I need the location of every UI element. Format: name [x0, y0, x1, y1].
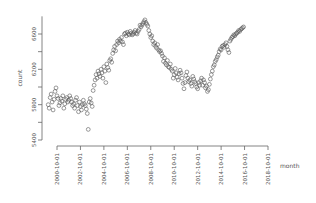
- data-point: [80, 108, 84, 112]
- data-point: [105, 62, 109, 66]
- x-tick-label: 2018-10-01: [265, 153, 271, 185]
- data-point: [51, 108, 55, 112]
- x-tick-label: 2016-10-01: [242, 153, 248, 185]
- data-point: [180, 76, 184, 80]
- data-point: [91, 89, 95, 93]
- x-tick-label: 2008-10-01: [148, 153, 154, 185]
- data-point: [101, 76, 105, 80]
- data-point: [104, 81, 108, 85]
- y-tick-label: 6200: [31, 62, 37, 76]
- y-tick-label: 5800: [31, 97, 37, 111]
- x-tick-label: 2012-10-01: [195, 153, 201, 185]
- data-point: [86, 127, 90, 131]
- data-point: [207, 82, 211, 86]
- x-tick-label: 2010-10-01: [171, 153, 177, 185]
- data-point: [48, 96, 52, 100]
- x-tick-label: 2006-10-01: [124, 153, 130, 185]
- y-tick-label: 5400: [31, 133, 37, 147]
- data-point: [85, 112, 89, 116]
- data-point: [168, 62, 172, 66]
- x-axis: 2000-10-012002-10-012004-10-012006-10-01…: [54, 146, 271, 185]
- data-point: [90, 105, 94, 109]
- data-point: [47, 106, 51, 110]
- y-axis-label: count: [16, 69, 23, 87]
- data-point: [92, 83, 96, 87]
- x-axis-label: month: [280, 162, 300, 169]
- data-point: [209, 73, 213, 77]
- data-point: [185, 70, 189, 74]
- x-tick-label: 2000-10-01: [54, 153, 60, 185]
- data-point: [53, 90, 57, 94]
- x-tick-label: 2002-10-01: [77, 153, 83, 185]
- data-point: [62, 106, 66, 110]
- x-tick-label: 2014-10-01: [218, 153, 224, 185]
- data-point: [184, 74, 188, 78]
- data-point: [173, 67, 177, 71]
- data-point: [182, 87, 186, 91]
- data-point: [210, 69, 214, 73]
- data-point: [171, 76, 175, 80]
- data-point: [88, 97, 92, 101]
- data-point: [49, 92, 53, 96]
- data-point: [103, 69, 107, 73]
- data-point: [84, 107, 88, 111]
- y-axis: 5400580062006600: [31, 16, 42, 147]
- scatter-chart: 5400580062006600 2000-10-012002-10-01200…: [0, 0, 316, 203]
- data-point: [46, 103, 50, 107]
- data-point: [81, 98, 85, 102]
- data-point: [165, 59, 169, 63]
- data-point: [61, 94, 65, 98]
- data-point: [52, 97, 56, 101]
- data-points: [46, 18, 245, 131]
- data-point: [208, 77, 212, 81]
- data-point: [147, 29, 151, 33]
- data-point: [54, 86, 58, 90]
- data-point: [50, 100, 54, 104]
- y-tick-label: 6600: [31, 27, 37, 41]
- x-tick-label: 2004-10-01: [101, 153, 107, 185]
